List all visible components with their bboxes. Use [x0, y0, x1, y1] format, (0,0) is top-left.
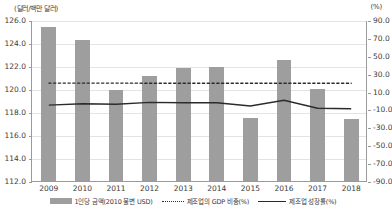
- legend-item-label: 제조업의 GDP 비중(%): [187, 196, 250, 206]
- right-axis-tick-label: -50.0: [368, 142, 392, 150]
- legend-item[interactable]: 제조업 성장률(%): [258, 196, 336, 206]
- right-axis-tick-mark: [368, 21, 371, 22]
- right-axis-tick-label: -70.0: [368, 160, 392, 168]
- x-axis-tick-label: 2009: [32, 185, 66, 193]
- x-axis-tick-label: 2012: [133, 185, 167, 193]
- legend-item[interactable]: 제조업의 GDP 비중(%): [162, 196, 250, 206]
- right-axis-unit-label: (%): [370, 3, 382, 11]
- right-axis-tick-mark: [368, 93, 371, 94]
- legend-item-label: 1인당 금액(2010 불변 USD): [75, 196, 153, 206]
- right-axis-tick-label: 70.0: [368, 35, 390, 43]
- right-axis-tick-mark: [368, 128, 371, 129]
- right-axis-tick-mark: [368, 75, 371, 76]
- x-axis-tick-label: 2016: [267, 185, 301, 193]
- legend-item-label: 제조업 성장률(%): [289, 196, 336, 206]
- right-axis-tick-mark: [368, 57, 371, 58]
- right-axis-tick-mark: [368, 110, 371, 111]
- plot-area: 126.0124.0122.0120.0118.0116.0114.0112.0…: [31, 21, 367, 182]
- chart-legend: 1인당 금액(2010 불변 USD)제조업의 GDP 비중(%)제조업 성장률…: [0, 196, 386, 206]
- left-axis-tick-label: 114.0: [5, 155, 30, 163]
- x-axis-tick-label: 2014: [200, 185, 234, 193]
- x-axis-tick-label: 2018: [334, 185, 368, 193]
- left-axis-tick-label: 116.0: [5, 132, 30, 140]
- right-axis-tick-mark: [368, 39, 371, 40]
- solid-line: [49, 100, 351, 109]
- x-axis-tick-label: 2010: [66, 185, 100, 193]
- right-axis-tick-label: 90.0: [368, 17, 390, 25]
- left-axis-tick-label: 122.0: [5, 63, 30, 71]
- legend-item[interactable]: 1인당 금액(2010 불변 USD): [50, 196, 153, 206]
- right-axis-tick-label: 50.0: [368, 53, 390, 61]
- bar-swatch-icon: [50, 198, 72, 204]
- left-axis-tick-label: 120.0: [5, 86, 30, 94]
- right-axis-tick-label: -30.0: [368, 124, 392, 132]
- left-axis-tick-label: 112.0: [5, 178, 30, 186]
- dotted-line-swatch-icon: [162, 201, 184, 202]
- line-series: [32, 21, 368, 182]
- right-axis-tick-mark: [368, 164, 371, 165]
- right-axis-tick-label: -90.0: [368, 178, 392, 186]
- right-axis-tick-mark: [368, 146, 371, 147]
- left-axis-unit-label: (달러/백만 달러): [14, 3, 58, 13]
- right-axis-tick-label: 10.0: [368, 89, 390, 97]
- left-axis-tick-mark: [29, 182, 32, 183]
- x-axis-tick-label: 2017: [301, 185, 335, 193]
- left-axis-tick-label: 126.0: [5, 17, 30, 25]
- solid-line-swatch-icon: [258, 201, 286, 202]
- x-axis-tick-label: 2011: [99, 185, 133, 193]
- right-axis-tick-mark: [368, 182, 371, 183]
- left-axis-tick-label: 124.0: [5, 40, 30, 48]
- right-axis-tick-label: -10.0: [368, 106, 392, 114]
- x-axis-tick-label: 2015: [234, 185, 268, 193]
- left-axis-tick-label: 118.0: [5, 109, 30, 117]
- x-axis-tick-label: 2013: [166, 185, 200, 193]
- right-axis-tick-label: 30.0: [368, 71, 390, 79]
